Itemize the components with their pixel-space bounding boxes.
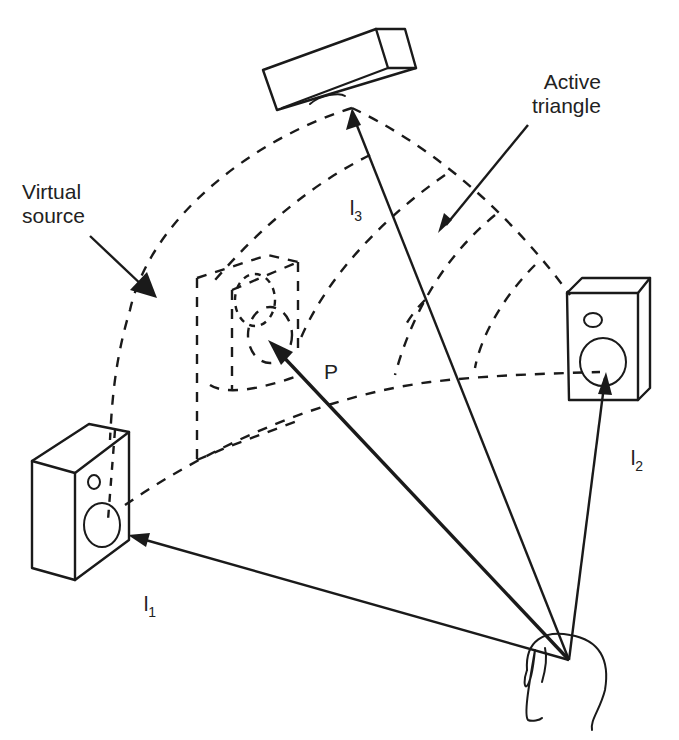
l3-label: l3 — [338, 172, 362, 222]
virtual-source-pointer — [90, 236, 145, 288]
l2-label: l2 — [619, 422, 643, 472]
vector-l1 — [135, 537, 569, 660]
arrowhead-l2 — [598, 372, 612, 395]
active-triangle-pointer-head — [438, 213, 452, 233]
l1-sub: 1 — [148, 604, 156, 620]
loudspeaker-1 — [32, 424, 129, 580]
l2-sub: 2 — [635, 458, 643, 474]
virtual-source-label: Virtual source — [22, 180, 85, 228]
vectors — [128, 108, 612, 660]
p-label: P — [324, 360, 338, 384]
vector-p — [277, 350, 569, 660]
l3-sub: 3 — [354, 208, 362, 224]
annotation-arrows — [90, 125, 528, 298]
active-triangle-label: Active triangle — [532, 70, 601, 118]
active-triangle-outline — [110, 108, 600, 505]
virtual-source-pointer-head — [130, 272, 157, 298]
active-triangle-pointer — [446, 125, 528, 225]
loudspeaker-3 — [263, 29, 416, 110]
arrowhead-l1 — [128, 533, 150, 547]
vector-l2 — [569, 378, 605, 660]
l1-label: l1 — [132, 568, 156, 618]
grid-arcs — [215, 155, 535, 375]
